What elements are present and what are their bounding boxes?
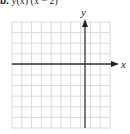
y-axis-label: y bbox=[80, 6, 86, 18]
y-axis-arrow-icon bbox=[82, 19, 88, 27]
x-axis-arrow-icon bbox=[111, 61, 119, 67]
coordinate-grid: x y bbox=[0, 0, 130, 134]
x-axis-label: x bbox=[120, 58, 126, 70]
grid-lines bbox=[12, 22, 110, 128]
